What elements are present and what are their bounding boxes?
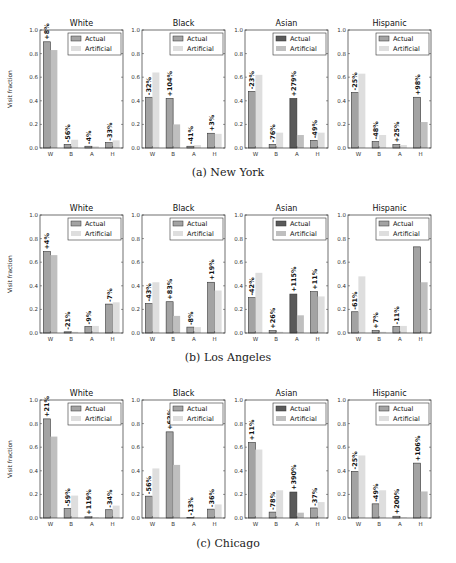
y-tick-label: 0.4 (131, 283, 140, 289)
bar-artificial (318, 296, 325, 333)
panel-black: Black0.00.20.40.60.81.0-32%W+104%B-41%A+… (131, 19, 225, 157)
legend: ActualArtificial (376, 218, 429, 240)
legend-actual: Actual (393, 220, 414, 228)
x-tick-label: B (377, 336, 381, 342)
y-tick-label: 0.8 (29, 51, 38, 57)
bar-artificial (358, 276, 365, 333)
x-tick-label: H (419, 521, 423, 527)
panel-black: Black0.00.20.40.60.81.0-56%W+62%B-13%A-3… (131, 389, 225, 527)
legend: ActualArtificial (68, 218, 121, 240)
bar-actual (208, 282, 215, 333)
legend-artificial: Artificial (393, 230, 420, 238)
bar-actual (64, 144, 71, 148)
bar-value-label: +104% (166, 70, 174, 96)
x-tick-label: W (356, 336, 362, 342)
legend-artificial: Artificial (393, 45, 420, 53)
bar-actual (351, 471, 358, 518)
bar-value-label: -76% (269, 124, 277, 143)
bar-value-label: -7% (106, 288, 114, 302)
y-tick-label: 1.0 (131, 397, 140, 403)
x-tick-label: A (90, 151, 94, 157)
bar-actual (269, 331, 276, 333)
row-los-angeles: Visit fractionWhite0.00.20.40.60.81.0+4%… (0, 185, 456, 370)
x-tick-label: B (69, 151, 73, 157)
bar-artificial (50, 255, 57, 333)
y-tick-label: 0.2 (131, 121, 140, 127)
y-tick-label: 0.4 (29, 283, 38, 289)
bar-value-label: -42% (248, 277, 256, 296)
y-tick-label: 0.6 (29, 259, 38, 265)
legend-actual: Actual (393, 35, 414, 43)
y-tick-label: 0.8 (337, 51, 346, 57)
legend-actual: Actual (290, 405, 311, 413)
bar-artificial (358, 455, 365, 518)
bar-value-label: +21% (43, 395, 51, 416)
bar-artificial (318, 133, 325, 148)
bar-actual (372, 504, 379, 518)
legend-actual: Actual (85, 405, 106, 413)
bar-actual (248, 298, 255, 333)
legend-artificial: Artificial (290, 415, 317, 423)
bar-value-label: -49% (372, 483, 380, 502)
y-tick-label: 1.0 (29, 212, 38, 218)
y-tick-label: 1.0 (234, 27, 243, 33)
y-tick-label: 0.6 (131, 74, 140, 80)
bar-value-label: +4% (43, 233, 51, 250)
y-tick-label: 0.2 (234, 306, 243, 312)
x-tick-label: A (192, 521, 196, 527)
panel-white: White0.00.20.40.60.81.0+4%W-21%B-9%A-7%H… (29, 204, 123, 342)
y-tick-label: 1.0 (234, 397, 243, 403)
panel-title: Black (173, 389, 195, 398)
legend: ActualArtificial (68, 33, 121, 55)
y-tick-label: 0.8 (234, 421, 243, 427)
legend-artificial: Artificial (187, 45, 214, 53)
legend-artificial: Artificial (393, 415, 420, 423)
bar-value-label: -9% (85, 310, 93, 324)
bar-value-label: +98% (414, 74, 422, 95)
y-tick-label: 0.0 (131, 515, 140, 521)
x-tick-label: W (48, 521, 54, 527)
y-tick-label: 0.2 (337, 491, 346, 497)
bar-actual (290, 294, 297, 333)
bar-artificial (152, 282, 159, 333)
bar-value-label: -25% (351, 72, 359, 91)
panel-hispanic: Hispanic0.00.20.40.60.81.0-25%W-48%B+25%… (337, 19, 431, 157)
bar-actual (351, 312, 358, 333)
y-tick-label: 0.8 (337, 236, 346, 242)
y-tick-label: 0.8 (29, 236, 38, 242)
bar-artificial (276, 490, 283, 518)
x-tick-label: H (316, 151, 320, 157)
bar-value-label: +200% (393, 488, 401, 514)
bar-actual (166, 98, 173, 148)
bar-artificial (113, 140, 120, 148)
bar-artificial (50, 437, 57, 518)
x-tick-label: A (398, 151, 402, 157)
y-tick-label: 0.0 (234, 515, 243, 521)
bar-artificial (297, 135, 304, 148)
bar-value-label: -25% (351, 451, 359, 470)
x-tick-label: B (377, 521, 381, 527)
bar-value-label: -21% (64, 311, 72, 330)
bar-value-label: -32% (145, 77, 153, 96)
x-tick-label: B (171, 151, 175, 157)
legend-actual: Actual (187, 405, 208, 413)
bar-actual (269, 144, 276, 148)
bar-actual (85, 327, 92, 333)
y-tick-label: 1.0 (29, 397, 38, 403)
bar-actual (269, 512, 276, 518)
panel-title: Black (173, 19, 195, 28)
x-tick-label: A (192, 336, 196, 342)
y-tick-label: 0.4 (234, 98, 243, 104)
x-tick-label: H (316, 336, 320, 342)
legend-artificial: Artificial (187, 415, 214, 423)
bar-artificial (113, 302, 120, 333)
y-tick-label: 1.0 (29, 27, 38, 33)
panel-white: White0.00.20.40.60.81.0+8%W-56%B-4%A-33%… (29, 19, 123, 157)
legend-actual: Actual (290, 35, 311, 43)
bar-artificial (71, 496, 78, 518)
row-new-york: Visit fractionWhite0.00.20.40.60.81.0+8%… (0, 0, 456, 185)
x-tick-label: B (274, 151, 278, 157)
caption-new-york: (a) New York (0, 166, 456, 179)
y-tick-label: 0.2 (29, 121, 38, 127)
x-tick-label: A (295, 151, 299, 157)
